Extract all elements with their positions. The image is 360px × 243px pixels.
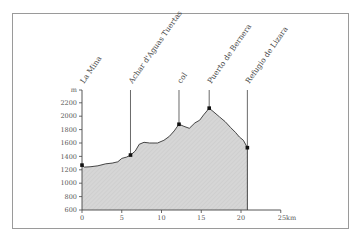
y-tick-label: 2000 [60, 112, 77, 120]
y-axis: 6008001000120014001600180020002200m [60, 86, 82, 214]
y-tick-label: 1400 [60, 153, 77, 161]
x-tick-label: 20 [237, 214, 245, 222]
elevation-profile-chart: 6008001000120014001600180020002200m 0510… [0, 0, 360, 243]
x-tick-label: 25km [278, 214, 296, 222]
x-tick-label: 15 [197, 214, 205, 222]
waypoint-label: Achar d'Aguas Tuertas [126, 9, 184, 86]
x-tick-label: 0 [80, 214, 84, 222]
waypoint-label: Refugio de Lizara [244, 24, 290, 85]
x-axis: 0510152025km [80, 210, 296, 222]
y-tick-label: 2200 [60, 99, 77, 107]
x-tick-label: 5 [120, 214, 124, 222]
waypoint-marker [246, 146, 250, 150]
waypoint-marker [177, 122, 181, 126]
waypoint-label: col [175, 70, 189, 85]
y-unit-label: m [71, 86, 77, 94]
x-tick-label: 10 [157, 214, 165, 222]
y-tick-label: 800 [65, 193, 77, 201]
waypoint-label: La Mina [78, 54, 104, 85]
waypoint-marker [207, 106, 211, 110]
y-tick-label: 600 [65, 206, 77, 214]
elevation-area [82, 108, 247, 210]
y-tick-label: 1200 [60, 166, 77, 174]
y-tick-label: 1000 [60, 179, 77, 187]
waypoint-marker [129, 153, 133, 157]
waypoint-marker [80, 163, 84, 167]
y-tick-label: 1800 [60, 126, 77, 134]
y-tick-label: 1600 [60, 139, 77, 147]
